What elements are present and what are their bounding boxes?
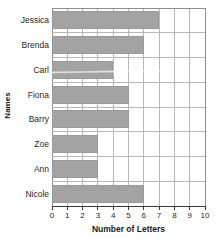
plot-area bbox=[52, 8, 205, 206]
x-axis-tick-label: 4 bbox=[111, 211, 115, 220]
y-axis-title-text: Names bbox=[3, 92, 12, 118]
x-axis-tick-label: 8 bbox=[172, 211, 176, 220]
x-axis-tick bbox=[67, 206, 68, 210]
bar bbox=[52, 110, 129, 128]
x-axis-tick-label: 3 bbox=[96, 211, 100, 220]
bar bbox=[52, 86, 129, 104]
y-axis-tick-label: Barry bbox=[12, 107, 51, 132]
x-axis-tick-label: 1 bbox=[65, 211, 69, 220]
x-axis-tick bbox=[159, 206, 160, 210]
bar-row bbox=[52, 8, 205, 33]
y-axis-tick-label: Ann bbox=[12, 157, 51, 182]
x-axis-tick bbox=[113, 206, 114, 210]
x-axis-tick-label: 0 bbox=[50, 211, 54, 220]
y-axis-tick-label: Nicole bbox=[12, 181, 51, 206]
x-axis-tick bbox=[189, 206, 190, 210]
bar-chart: Names JessicaBrendaCarlFionaBarryZoeAnnN… bbox=[0, 0, 218, 238]
x-axis-tick bbox=[97, 206, 98, 210]
x-axis-tick-labels: 012345678910 bbox=[52, 211, 205, 223]
bar bbox=[52, 11, 159, 29]
bar-row bbox=[52, 157, 205, 182]
bar bbox=[52, 36, 144, 54]
bar-row bbox=[52, 107, 205, 132]
bar-row bbox=[52, 181, 205, 206]
bar-row bbox=[52, 132, 205, 157]
x-axis-tick-label: 6 bbox=[142, 211, 146, 220]
x-axis-tick-label: 10 bbox=[201, 211, 210, 220]
y-axis-tick-label: Jessica bbox=[12, 8, 51, 33]
y-axis-tick-label: Carl bbox=[12, 58, 51, 83]
x-axis-tick bbox=[205, 206, 206, 210]
x-axis-title: Number of Letters bbox=[52, 224, 205, 234]
x-axis-tick bbox=[52, 206, 53, 210]
x-axis-tick bbox=[82, 206, 83, 210]
bar-series bbox=[52, 8, 205, 206]
bar-row bbox=[52, 33, 205, 58]
bar bbox=[52, 61, 113, 79]
x-axis-tick bbox=[174, 206, 175, 210]
x-axis-tick-label: 2 bbox=[80, 211, 84, 220]
bar bbox=[52, 160, 98, 178]
bar-row bbox=[52, 82, 205, 107]
bar bbox=[52, 135, 98, 153]
x-axis-tick-label: 5 bbox=[126, 211, 130, 220]
y-axis-tick-label: Brenda bbox=[12, 33, 51, 58]
x-axis-tick-label: 7 bbox=[157, 211, 161, 220]
y-axis-tick-labels: JessicaBrendaCarlFionaBarryZoeAnnNicole bbox=[12, 8, 51, 206]
y-axis-tick-label: Fiona bbox=[12, 82, 51, 107]
x-axis-tick-label: 9 bbox=[187, 211, 191, 220]
y-axis-tick-label: Zoe bbox=[12, 132, 51, 157]
bar-row bbox=[52, 58, 205, 83]
x-axis-tick bbox=[128, 206, 129, 210]
x-axis-tick bbox=[143, 206, 144, 210]
bar bbox=[52, 185, 144, 203]
